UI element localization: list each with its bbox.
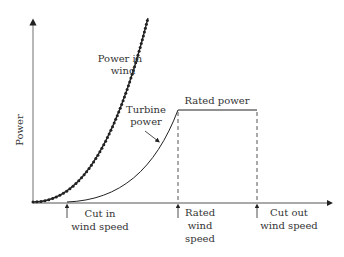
rated-power-label: Rated power <box>185 95 250 106</box>
rated-speed-label-2: wind <box>188 220 213 231</box>
power-curve-diagram: Power Power in wind Turbine power Rated … <box>0 0 344 257</box>
rated-speed-label-3: speed <box>185 233 215 244</box>
y-axis-label: Power <box>14 114 25 146</box>
turbine-power-label: Turbine <box>126 104 166 115</box>
turbine-power-pointer <box>145 131 158 141</box>
power-in-wind-label-2: wind <box>111 65 136 76</box>
cut-in-label: Cut in <box>85 208 116 219</box>
cut-in-label-2: wind speed <box>71 221 129 232</box>
cut-out-label-2: wind speed <box>260 220 318 231</box>
cut-out-label: Cut out <box>270 207 308 218</box>
turbine-power-label-2: power <box>130 116 162 127</box>
turbine-power-curve <box>67 110 257 202</box>
rated-speed-label: Rated <box>185 207 216 218</box>
power-in-wind-label: Power in <box>98 53 143 64</box>
